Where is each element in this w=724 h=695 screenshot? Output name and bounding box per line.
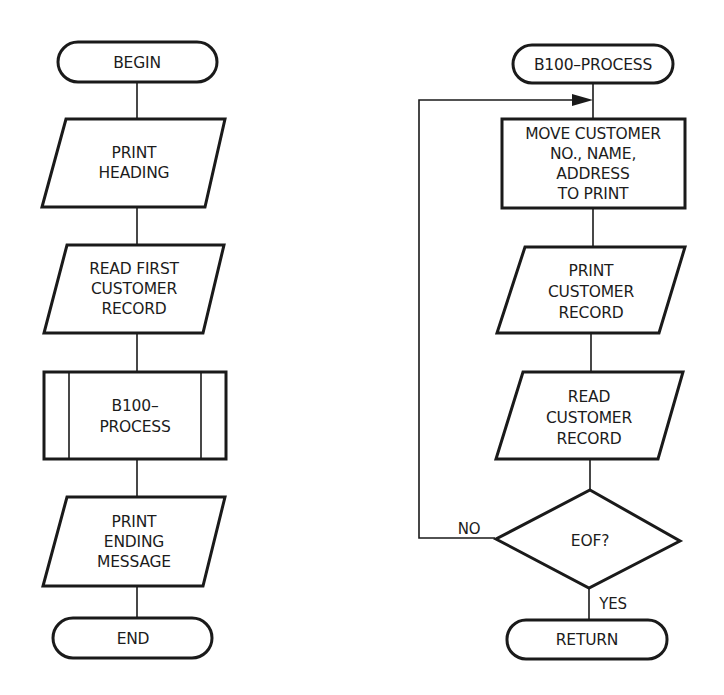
node-label: RECORD [101, 300, 166, 318]
process-move-customer: MOVE CUSTOMER NO., NAME, ADDRESS TO PRIN… [502, 119, 685, 208]
subroutine-flow: B100–PROCESS MOVE CUSTOMER NO., NAME, AD… [419, 45, 685, 659]
io-print-customer-record: PRINT CUSTOMER RECORD [497, 247, 685, 333]
main-flow: BEGIN PRINT HEADING READ FIRST CUSTOMER … [42, 42, 226, 658]
node-label: MESSAGE [97, 553, 171, 571]
node-label: PRINT [112, 144, 157, 162]
node-label: HEADING [99, 164, 170, 182]
node-label: B100–PROCESS [534, 56, 652, 74]
node-label: READ FIRST [89, 260, 179, 278]
io-read-first-customer-record: READ FIRST CUSTOMER RECORD [44, 245, 224, 333]
node-label: EOF? [571, 532, 609, 550]
node-label: PRINT [112, 513, 157, 531]
terminal-b100-process: B100–PROCESS [513, 45, 673, 83]
node-label: NO., NAME, [550, 145, 636, 163]
io-print-heading: PRINT HEADING [42, 119, 225, 207]
node-label: RETURN [556, 631, 619, 649]
node-label: MOVE CUSTOMER [525, 125, 661, 143]
node-label: TO PRINT [557, 185, 629, 203]
node-label: RECORD [556, 430, 621, 448]
edge-label-no: NO [458, 520, 481, 538]
edge-label-yes: YES [598, 595, 627, 613]
node-label: ENDING [104, 533, 164, 551]
node-label: ADDRESS [556, 165, 629, 183]
node-label: RECORD [558, 304, 623, 322]
arrowhead-icon [572, 94, 593, 106]
node-label: PROCESS [99, 418, 170, 436]
node-label: READ [568, 388, 611, 406]
decision-eof: EOF? [496, 490, 680, 588]
node-label: CUSTOMER [546, 409, 632, 427]
flowchart-canvas: BEGIN PRINT HEADING READ FIRST CUSTOMER … [0, 0, 724, 695]
io-read-customer-record: READ CUSTOMER RECORD [496, 372, 683, 459]
node-label: CUSTOMER [548, 283, 634, 301]
predefined-process-shape [44, 372, 226, 459]
node-label: PRINT [569, 262, 614, 280]
predefined-process-b100: B100– PROCESS [44, 372, 226, 459]
node-label: CUSTOMER [91, 280, 177, 298]
node-label: B100– [112, 397, 159, 415]
node-label: END [117, 630, 150, 648]
terminal-return: RETURN [507, 620, 667, 659]
io-print-ending-message: PRINT ENDING MESSAGE [43, 497, 225, 586]
io-parallelogram-shape [42, 119, 225, 207]
terminal-begin: BEGIN [58, 42, 217, 82]
node-label: BEGIN [113, 54, 161, 72]
terminal-end: END [53, 618, 212, 658]
